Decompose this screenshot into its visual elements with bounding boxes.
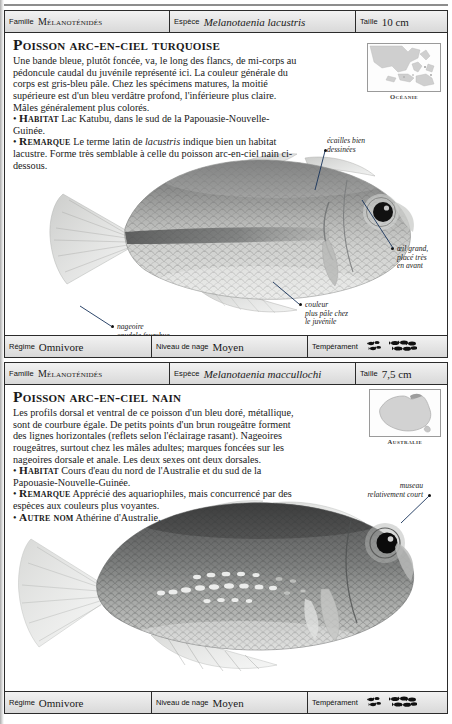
book-page: Famille Mélanoténidés Espèce Melanotaeni… — [0, 0, 452, 724]
description-block-2: Poisson arc-en-ciel nain Les profils dor… — [13, 389, 301, 523]
temperament-icon-group — [367, 340, 417, 354]
bullet-icon: • — [13, 113, 17, 124]
page-title-1: Poisson arc-en-ciel turquoise — [13, 37, 301, 53]
fact-text-before: Le terme latin de — [73, 136, 145, 147]
fact-keyword: Habitat — [19, 112, 59, 124]
callout-dot — [299, 303, 302, 306]
callout-dot — [324, 149, 327, 152]
bullet-icon: • — [13, 488, 17, 499]
callout-dot — [391, 247, 394, 250]
fact-text: Athérine d'Australie. — [76, 512, 161, 523]
temperament-label: Tempérament — [312, 698, 358, 707]
family-value: Mélanoténidés — [38, 16, 102, 27]
header-species-cell: Espèce Melanotaenia maccullochi — [169, 363, 355, 384]
callout-dot — [111, 325, 114, 328]
family-value: Mélanoténidés — [38, 368, 102, 379]
fact-keyword: Autre nom — [19, 511, 74, 523]
species-label: Espèce — [174, 17, 200, 26]
species-card-dwarf-rainbowfish: Famille Mélanoténidés Espèce Melanotaeni… — [4, 362, 448, 714]
species-value: Melanotaenia lacustris — [204, 16, 306, 28]
callout-eye-1: œil grand, placé très en avant — [397, 245, 428, 271]
map-frame — [367, 43, 441, 92]
diet-value: Omnivore — [39, 341, 84, 353]
species-label: Espèce — [174, 369, 200, 378]
callout-snout-2: museau relativement court — [335, 482, 423, 499]
swim-level-value: Moyen — [213, 697, 244, 709]
temperament-label: Tempérament — [312, 342, 358, 351]
footer-temperament-cell: Tempérament — [307, 692, 449, 713]
header-size-cell: Taille 10 cm — [355, 11, 449, 32]
bullet-icon: • — [13, 465, 17, 476]
bullet-icon: • — [13, 136, 17, 147]
fact-keyword: Habitat — [19, 464, 59, 476]
swim-level-label: Niveau de nage — [156, 698, 209, 707]
footer-swim-level-cell: Niveau de nage Moyen — [151, 692, 307, 713]
page-top-rule — [4, 4, 448, 6]
callout-dot — [428, 494, 431, 497]
fact-habitat-2: • Habitat Cours d'eau du nord de l'Austr… — [13, 465, 301, 488]
large-school-icon — [389, 696, 417, 710]
small-school-icon — [367, 696, 382, 709]
swim-level-value: Moyen — [213, 341, 244, 353]
size-value: 10 cm — [382, 16, 409, 28]
size-label: Taille — [360, 17, 378, 26]
fact-other-name-2: • Autre nom Athérine d'Australie. — [13, 512, 301, 524]
footer-temperament-cell: Tempérament — [307, 336, 449, 357]
description-text-2: Les profils dorsal et ventral de ce pois… — [13, 407, 301, 465]
description-block-1: Poisson arc-en-ciel turquoise Une bande … — [13, 37, 301, 171]
asia-oceania-map-icon — [368, 44, 440, 91]
card-footer: Régime Omnivore Niveau de nage Moyen Tem… — [5, 691, 447, 713]
page-title-2: Poisson arc-en-ciel nain — [13, 389, 301, 405]
footer-diet-cell: Régime Omnivore — [5, 692, 151, 713]
footer-diet-cell: Régime Omnivore — [5, 336, 151, 357]
fact-habitat-1: • Habitat Lac Katubu, dans le sud de la … — [13, 113, 301, 136]
description-text-1: Une bande bleue, plutôt foncée, va, le l… — [13, 55, 301, 113]
species-card-turquoise-rainbowfish: Famille Mélanoténidés Espèce Melanotaeni… — [4, 10, 448, 358]
species-value: Melanotaenia maccullochi — [204, 368, 322, 380]
footer-swim-level-cell: Niveau de nage Moyen — [151, 336, 307, 357]
callout-juvenile-colour-1: couleur plus pâle chez le juvénile — [305, 301, 348, 327]
callout-scales-1: écailles bien dessinées — [327, 137, 365, 154]
header-family-cell: Famille Mélanoténidés — [5, 363, 169, 384]
fact-remark-2: • Remarque Apprécié des aquariophiles, m… — [13, 488, 301, 511]
map-caption-1: Océanie — [367, 93, 441, 100]
diet-label: Régime — [9, 342, 35, 351]
diet-label: Régime — [9, 698, 35, 707]
card-header: Famille Mélanoténidés Espèce Melanotaeni… — [5, 363, 447, 385]
diet-value: Omnivore — [39, 697, 84, 709]
bullet-icon: • — [13, 512, 17, 523]
small-school-icon — [367, 340, 382, 353]
australia-map-icon — [370, 390, 440, 436]
swim-level-label: Niveau de nage — [156, 342, 209, 351]
distribution-map-1: Océanie — [367, 43, 441, 100]
large-school-icon — [389, 340, 417, 354]
family-label: Famille — [9, 369, 34, 378]
header-species-cell: Espèce Melanotaenia lacustris — [169, 11, 355, 32]
map-frame — [369, 389, 441, 437]
card-header: Famille Mélanoténidés Espèce Melanotaeni… — [5, 11, 447, 33]
fact-text-italic: lacustris — [145, 136, 180, 147]
fact-remark-1: • Remarque Le terme latin de lacustris i… — [13, 136, 301, 171]
distribution-map-2: Australie — [369, 389, 441, 445]
size-label: Taille — [360, 369, 378, 378]
temperament-icon-group — [367, 696, 417, 710]
card-footer: Régime Omnivore Niveau de nage Moyen Tem… — [5, 335, 447, 357]
fact-keyword: Remarque — [19, 487, 71, 499]
header-family-cell: Famille Mélanoténidés — [5, 11, 169, 32]
size-value: 7,5 cm — [382, 368, 412, 380]
family-label: Famille — [9, 17, 34, 26]
fact-keyword: Remarque — [19, 135, 71, 147]
map-caption-2: Australie — [369, 438, 441, 445]
header-size-cell: Taille 7,5 cm — [355, 363, 449, 384]
